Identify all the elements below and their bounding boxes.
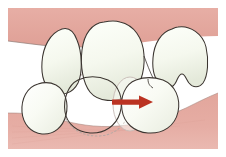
tooth-lower-left-premolar	[22, 83, 67, 134]
illustration-canvas	[0, 0, 226, 157]
tooth-movement-illustration: Dental illustration of upper and lower t…	[0, 0, 226, 157]
tooth-lower-center-molar-outline	[65, 77, 122, 133]
arrow-shaft	[112, 100, 141, 105]
illustration-frame	[8, 8, 218, 149]
